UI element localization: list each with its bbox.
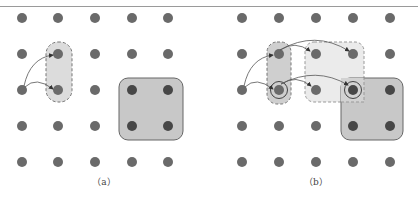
caption-b: （b）: [304, 175, 328, 188]
caption-a: （a）: [92, 175, 115, 188]
panel-b: [237, 13, 403, 167]
panel-a: [17, 13, 183, 167]
diagram-canvas: [0, 0, 418, 197]
